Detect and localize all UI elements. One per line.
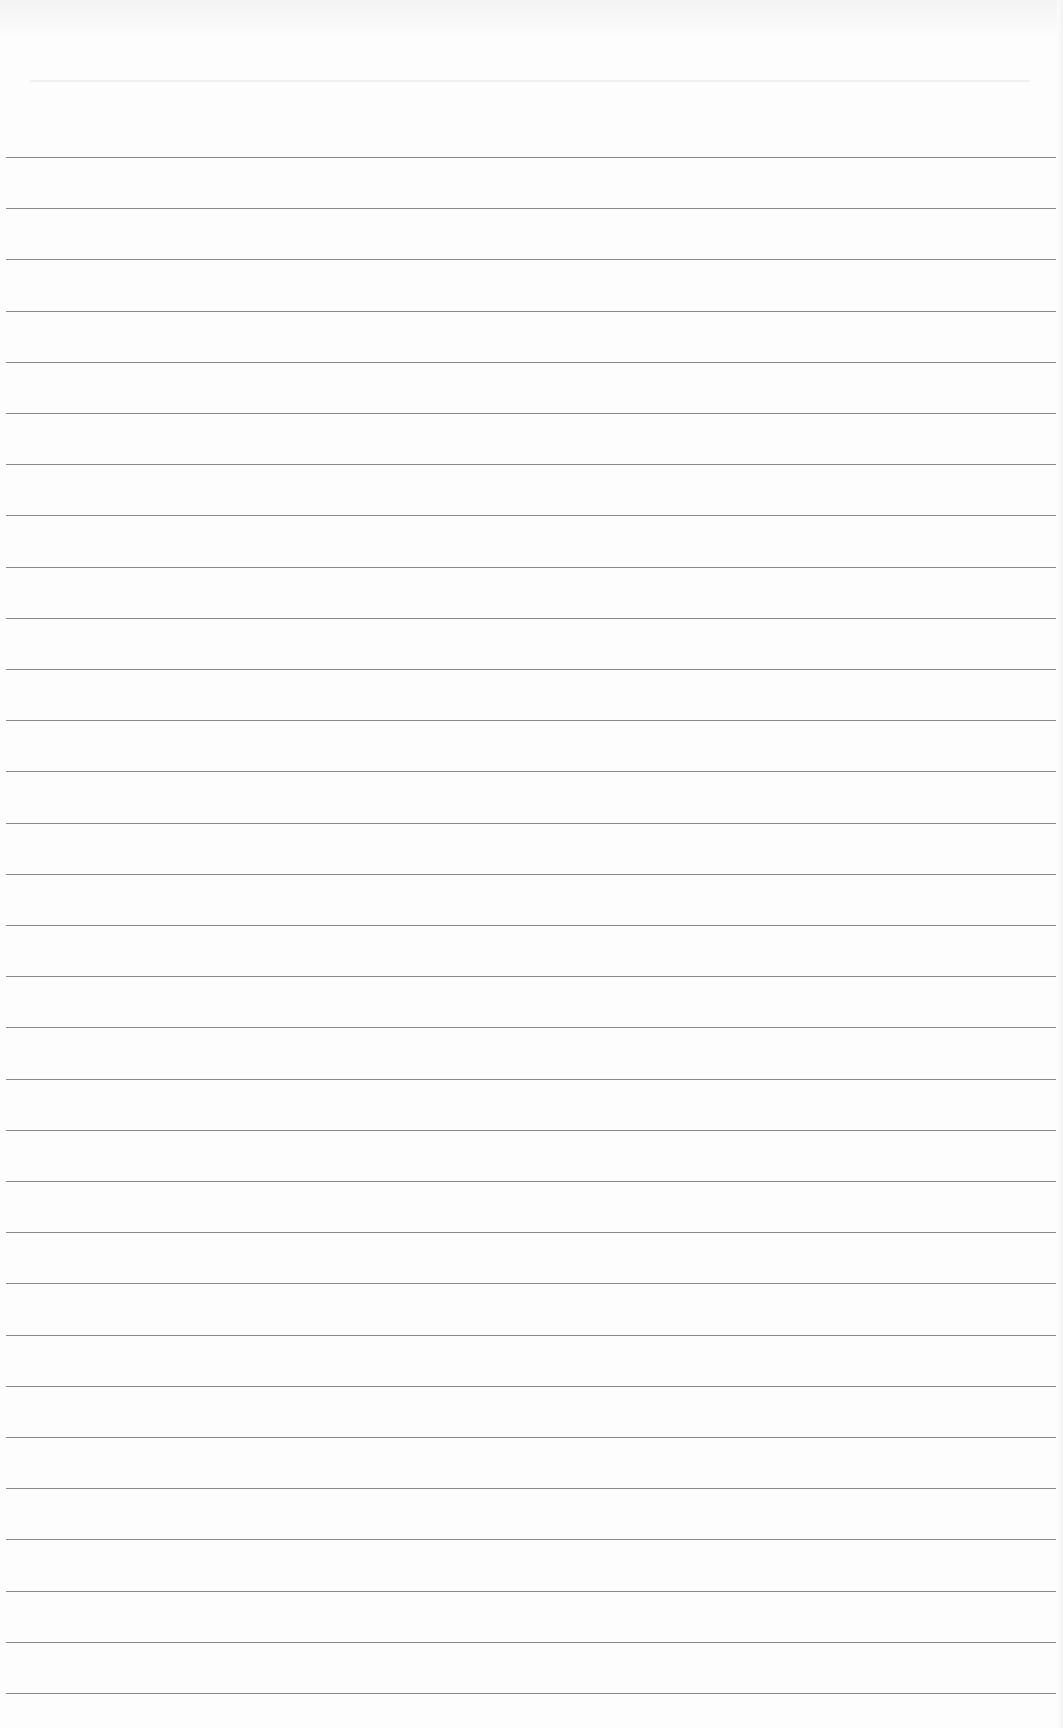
ruled-line bbox=[6, 925, 1056, 926]
ruled-line bbox=[6, 311, 1056, 312]
ruled-line bbox=[6, 413, 1056, 414]
ruled-line bbox=[6, 1693, 1056, 1694]
ruled-line bbox=[6, 976, 1056, 977]
ruled-line bbox=[6, 1027, 1056, 1028]
ruled-line bbox=[6, 515, 1056, 516]
ruled-line bbox=[6, 1079, 1056, 1080]
ruled-line bbox=[6, 618, 1056, 619]
ruled-line bbox=[6, 720, 1056, 721]
right-paper-edge bbox=[1057, 0, 1063, 1728]
bleed-through-text bbox=[30, 80, 1030, 82]
ruled-line bbox=[6, 157, 1056, 158]
ruled-line bbox=[6, 1591, 1056, 1592]
ruled-line bbox=[6, 208, 1056, 209]
ruled-line bbox=[6, 771, 1056, 772]
ruled-line bbox=[6, 464, 1056, 465]
ruled-line bbox=[6, 259, 1056, 260]
ruled-line bbox=[6, 1488, 1056, 1489]
ruled-line bbox=[6, 1335, 1056, 1336]
ruled-line bbox=[6, 1437, 1056, 1438]
ruled-line bbox=[6, 823, 1056, 824]
ruled-line bbox=[6, 1539, 1056, 1540]
ruled-line bbox=[6, 362, 1056, 363]
ruled-line bbox=[6, 1283, 1056, 1284]
top-margin-shadow bbox=[0, 0, 1063, 40]
ruled-line bbox=[6, 874, 1056, 875]
ruled-line bbox=[6, 1181, 1056, 1182]
ruled-line bbox=[6, 1642, 1056, 1643]
ruled-line bbox=[6, 1232, 1056, 1233]
ruled-line bbox=[6, 1130, 1056, 1131]
ruled-line bbox=[6, 1386, 1056, 1387]
ruled-line bbox=[6, 567, 1056, 568]
ruled-line bbox=[6, 669, 1056, 670]
